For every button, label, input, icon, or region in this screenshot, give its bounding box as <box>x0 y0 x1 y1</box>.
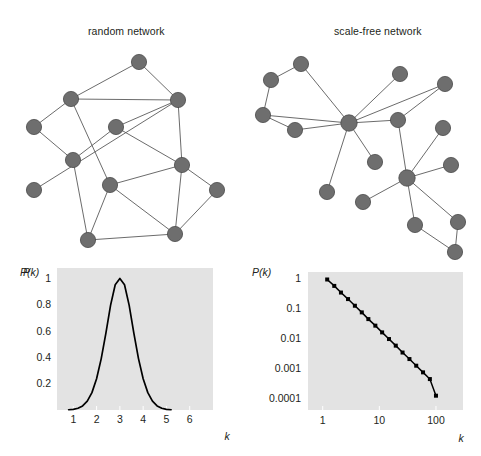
network-node <box>80 232 95 247</box>
network-node <box>390 112 405 127</box>
network-edge <box>175 190 217 234</box>
random-network-svg <box>20 42 245 262</box>
network-nodes <box>26 54 224 247</box>
data-point-marker <box>387 337 391 341</box>
data-point-marker <box>353 304 357 308</box>
chart-label: 0.4 <box>36 351 51 363</box>
network-edge <box>398 120 407 178</box>
chart-label: 1 <box>45 272 51 284</box>
data-point-marker <box>325 277 329 281</box>
chart-label: k <box>224 430 230 442</box>
network-edge <box>71 99 110 185</box>
network-node <box>65 152 80 167</box>
data-point-marker <box>373 324 377 328</box>
data-point-marker <box>346 297 350 301</box>
data-point-marker <box>380 330 384 334</box>
data-point-marker <box>428 377 432 381</box>
chart-label: 0.8 <box>36 298 51 310</box>
network-node <box>341 115 357 131</box>
network-edge <box>139 62 178 100</box>
random-degree-distribution-svg: 0.20.40.60.81PP(k)123456k <box>8 264 236 454</box>
network-node <box>209 182 224 197</box>
chart-label: 0.1 <box>286 302 301 314</box>
network-edge <box>407 128 443 178</box>
chart-label: 100 <box>427 414 445 426</box>
network-node <box>102 177 117 192</box>
chart-label: 4 <box>140 413 146 425</box>
chart-label: 0.001 <box>275 362 301 374</box>
network-edge <box>110 185 175 234</box>
network-edges <box>263 64 458 252</box>
network-node <box>450 214 465 229</box>
data-point-marker <box>360 310 364 314</box>
network-edge <box>263 115 349 123</box>
network-edge <box>71 62 139 99</box>
network-node <box>443 157 458 172</box>
network-node <box>319 184 334 199</box>
data-point-marker <box>421 370 425 374</box>
chart-label: 2 <box>94 413 100 425</box>
data-point-marker <box>394 344 398 348</box>
data-point-marker <box>401 351 405 355</box>
scalefree-network-diagram <box>255 42 481 262</box>
y-axis-title: P(k) <box>252 266 271 278</box>
network-nodes <box>255 56 465 259</box>
chart-label: 0.6 <box>36 325 51 337</box>
network-node <box>255 107 270 122</box>
network-node <box>108 119 123 134</box>
network-node <box>167 226 182 241</box>
scalefree-degree-distribution-chart: 10.10.010.0010.0001P(k)110100k <box>244 264 481 454</box>
figure-canvas: random network scale-free network 0.20.4… <box>0 0 481 456</box>
random-degree-distribution-chart: 0.20.40.60.81PP(k)123456k <box>8 264 236 454</box>
chart-label: 0.2 <box>36 377 51 389</box>
chart-label: 6 <box>187 413 193 425</box>
network-edge <box>73 127 116 160</box>
y-axis-title: P(k) <box>20 266 39 278</box>
network-node <box>26 119 41 134</box>
network-edge <box>175 165 182 234</box>
chart-label: 1 <box>295 272 301 284</box>
data-point-marker <box>414 364 418 368</box>
network-node <box>437 76 452 91</box>
chart-label: 1 <box>320 414 326 426</box>
network-node <box>447 244 462 259</box>
network-node <box>367 154 382 169</box>
data-point-marker <box>339 291 343 295</box>
chart-label: 3 <box>117 413 123 425</box>
network-edge <box>398 84 445 120</box>
network-edges <box>34 62 217 240</box>
network-edge <box>178 100 182 165</box>
scalefree-degree-distribution-svg: 10.10.010.0010.0001P(k)110100k <box>244 264 481 454</box>
network-edge <box>73 160 88 240</box>
data-point-marker <box>332 284 336 288</box>
random-network-title: random network <box>88 25 165 37</box>
network-node <box>287 122 302 137</box>
network-edge <box>301 64 349 123</box>
chart-label: 0.01 <box>281 332 302 344</box>
network-node <box>131 54 146 69</box>
network-node <box>263 72 278 87</box>
network-edge <box>116 100 178 127</box>
network-node <box>355 194 370 209</box>
network-edge <box>110 165 182 185</box>
network-node <box>26 182 41 197</box>
network-node <box>293 56 308 71</box>
network-node <box>63 91 78 106</box>
network-edge <box>88 185 110 240</box>
chart-label: 5 <box>164 413 170 425</box>
network-node <box>170 92 185 107</box>
network-edge <box>327 123 349 192</box>
scalefree-network-title: scale-free network <box>334 25 422 37</box>
data-point-marker <box>407 357 411 361</box>
network-node <box>407 217 422 232</box>
scalefree-network-svg <box>255 42 481 262</box>
chart-label: k <box>458 432 464 444</box>
network-node <box>399 170 415 186</box>
network-node <box>174 157 189 172</box>
chart-label: 10 <box>373 414 385 426</box>
network-edge <box>407 178 458 222</box>
chart-label: 0.0001 <box>269 392 301 404</box>
data-point-marker <box>434 394 438 398</box>
network-node <box>435 120 450 135</box>
plot-area-background <box>308 272 463 410</box>
